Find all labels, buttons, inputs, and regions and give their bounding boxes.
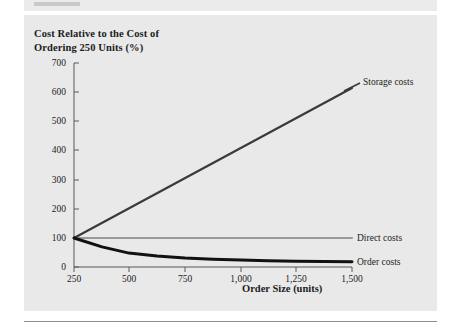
y-tick-label-300: 300 xyxy=(32,175,66,185)
y-tick-label-700: 700 xyxy=(32,58,66,68)
y-tick-label-500: 500 xyxy=(32,116,66,126)
y-tick-label-200: 200 xyxy=(32,204,66,214)
series-line-storage-costs xyxy=(74,88,352,238)
x-tick-label-500: 500 xyxy=(109,274,149,284)
figure-panel: Cost Relative to the Cost of Ordering 25… xyxy=(24,15,437,311)
storage-costs-leader-line xyxy=(344,83,360,91)
series-label-order-costs: Order costs xyxy=(357,257,401,267)
y-tick-label-400: 400 xyxy=(32,145,66,155)
y-tick-label-100: 100 xyxy=(32,233,66,243)
series-label-direct-costs: Direct costs xyxy=(357,233,402,243)
series-line-order-costs xyxy=(74,238,352,262)
x-tick-label-750: 750 xyxy=(165,274,205,284)
header-strip-mark xyxy=(34,2,80,6)
x-tick-label-1500: 1,500 xyxy=(332,274,372,284)
series-label-storage-costs: Storage costs xyxy=(363,77,413,87)
page-header-strip xyxy=(24,0,437,11)
y-tick-label-600: 600 xyxy=(32,87,66,97)
page-bottom-rule xyxy=(24,321,437,322)
x-axis-title: Order Size (units) xyxy=(242,283,322,294)
x-tick-label-250: 250 xyxy=(54,274,94,284)
y-tick-label-0: 0 xyxy=(32,262,66,272)
x-axis-ticks xyxy=(74,267,352,272)
chart-plot-area: 0 100 200 300 400 500 600 700 250 500 75… xyxy=(24,15,437,311)
